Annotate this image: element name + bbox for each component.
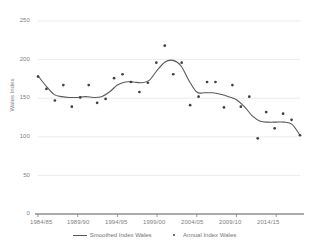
data-point — [70, 105, 73, 108]
data-point — [172, 73, 175, 76]
data-point — [62, 84, 65, 87]
data-point — [180, 61, 183, 64]
data-point — [239, 105, 242, 108]
chart-legend: Smoothed Index Wales Annual Index Wales — [0, 232, 309, 238]
data-point — [113, 77, 116, 80]
data-point — [87, 84, 90, 87]
data-point — [256, 137, 259, 140]
data-point — [130, 81, 133, 84]
data-point — [37, 75, 40, 78]
data-point — [163, 44, 166, 47]
data-point — [265, 111, 268, 114]
data-point — [138, 91, 141, 94]
data-point — [197, 95, 200, 98]
data-point — [189, 104, 192, 107]
data-point — [147, 81, 150, 84]
data-point — [223, 106, 226, 109]
data-point — [79, 96, 82, 99]
legend-label-smoothed: Smoothed Index Wales — [90, 232, 152, 238]
line-swatch-icon — [73, 235, 87, 236]
legend-label-annual: Annual Index Wales — [183, 232, 236, 238]
data-point — [54, 99, 57, 102]
data-point — [45, 88, 48, 91]
data-point — [290, 118, 293, 121]
data-point — [121, 73, 124, 76]
dot-swatch-icon — [173, 234, 176, 237]
gridlines — [38, 21, 300, 175]
legend-item-annual[interactable]: Annual Index Wales — [168, 232, 237, 238]
data-point — [214, 81, 217, 84]
annual-index-points — [37, 44, 302, 139]
data-point — [273, 127, 276, 130]
legend-item-smoothed[interactable]: Smoothed Index Wales — [73, 232, 152, 238]
smoothed-index-line — [38, 60, 300, 135]
data-point — [248, 95, 251, 98]
data-point — [282, 112, 285, 115]
data-point — [104, 98, 107, 101]
data-point — [155, 61, 158, 64]
data-point — [206, 81, 209, 84]
plot-area — [0, 0, 309, 252]
data-point — [96, 101, 99, 104]
data-point — [231, 84, 234, 87]
data-point — [299, 134, 302, 137]
chart-container: Wales Index 250 200 150 100 50 0 1984/85… — [0, 0, 309, 252]
